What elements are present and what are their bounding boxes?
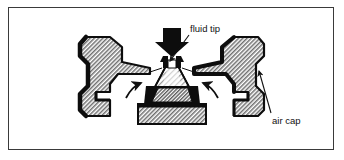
fluid-tip-label: fluid tip <box>190 23 220 34</box>
figure-root: fluid tip air cap <box>0 0 344 160</box>
air-cap-label: air cap <box>272 115 301 126</box>
cutaway-diagram: fluid tip air cap <box>0 0 344 160</box>
callout-air-cap: air cap <box>259 71 301 126</box>
retaining-base <box>138 104 206 124</box>
air-flow-left <box>126 83 141 98</box>
air-flow-right <box>203 83 218 98</box>
seal-collar <box>144 86 200 104</box>
